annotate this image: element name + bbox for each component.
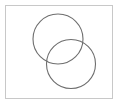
venn-diagram <box>0 0 118 104</box>
frame-border <box>6 6 113 99</box>
